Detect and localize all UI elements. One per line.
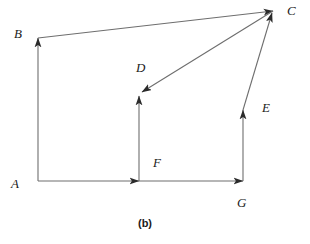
vertex-label-G: G	[237, 196, 246, 209]
figure-container: A B C D E F G (b)	[0, 0, 310, 244]
vertex-label-F: F	[153, 156, 161, 169]
vertex-label-E: E	[262, 101, 270, 114]
vertex-label-D: D	[136, 61, 145, 74]
edge-E-to-C	[243, 13, 272, 110]
edge-B-to-C	[38, 11, 273, 38]
vertex-label-A: A	[11, 177, 19, 190]
edge-C-to-D	[142, 11, 273, 92]
vertex-label-C: C	[287, 4, 296, 17]
vertex-label-B: B	[14, 27, 22, 40]
vector-diagram-canvas	[0, 0, 310, 244]
figure-caption: (b)	[0, 218, 290, 229]
